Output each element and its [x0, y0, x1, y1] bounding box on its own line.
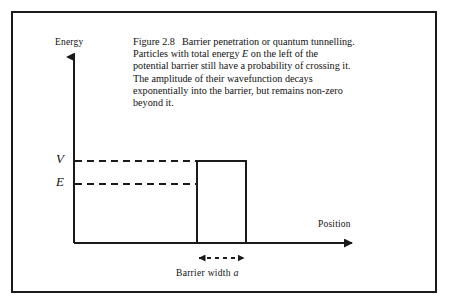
caption-line-2b: on the left of the: [251, 48, 318, 59]
potential-level-label: V: [56, 152, 64, 165]
caption-energy-symbol: E: [242, 48, 248, 59]
barrier-width-symbol: a: [234, 267, 239, 278]
caption-line-2a: Particles with total energy: [133, 48, 239, 59]
barrier-width-text: Barrier width: [176, 268, 231, 278]
caption-line-5: exponentially into the barrier, but rema…: [133, 85, 419, 97]
caption-figure-number: Figure 2.8: [133, 36, 175, 47]
energy-level-label: E: [56, 175, 64, 188]
caption-line-3: potential barrier still have a probabili…: [133, 60, 419, 72]
caption-line-4: The amplitude of their wavefunction deca…: [133, 73, 419, 85]
caption-figure-title: Barrier penetration or quantum tunnellin…: [182, 36, 355, 47]
caption-line-2: Particles with total energy E on the lef…: [133, 48, 419, 60]
caption-line-1: Figure 2.8Barrier penetration or quantum…: [133, 36, 419, 48]
figure-caption: Figure 2.8Barrier penetration or quantum…: [133, 36, 419, 109]
barrier-width-label: Barrier width a: [176, 268, 239, 279]
x-axis-label: Position: [318, 220, 351, 230]
figure-page: Energy Position V E Barrier width a Figu…: [0, 0, 451, 307]
caption-line-6: beyond it.: [133, 97, 419, 109]
y-axis-label: Energy: [55, 38, 83, 48]
